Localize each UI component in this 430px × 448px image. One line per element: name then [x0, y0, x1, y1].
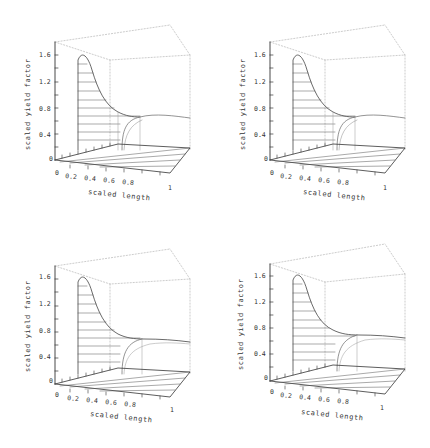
x-tick-0-4: 0.4: [86, 396, 99, 405]
z-axis-label: scaled yield factor: [24, 59, 32, 150]
x-tick-0-6: 0.6: [105, 398, 118, 407]
z-tick-0-4: 0.4: [254, 350, 266, 358]
x-tick-0-2: 0.2: [65, 172, 78, 181]
surface-plot-bottom-left: 1.6 1.2 0.8 0.4 0 0 0.2 0.4 0.6 0.8 1 sc…: [0, 224, 215, 448]
z-tick-0: 0: [49, 155, 53, 163]
x-axis-label: scaled length: [90, 410, 153, 424]
z-axis-label: scaled yield factor: [24, 281, 32, 372]
x-tick-0-2: 0.2: [280, 172, 293, 181]
surface-plot-bottom-right: 1.6 1.2 0.8 0.4 0 0 0.2 0.4 0.6 0.8 1 sc…: [215, 224, 430, 448]
z-tick-0-4: 0.4: [254, 131, 266, 139]
x-axis-label: scaled length: [88, 188, 151, 202]
x-tick-0-2: 0.2: [280, 391, 293, 400]
x-tick-0-6: 0.6: [318, 176, 331, 185]
x-tick-0: 0: [55, 169, 59, 177]
surface-plot-top-left: 1.6 1.2 0.8 0.4 0 0 0.2 0.4 0.6 0.8 1 sc…: [0, 0, 215, 224]
z-tick-1-2: 1.2: [254, 298, 266, 306]
x-axis-label: scaled length: [303, 188, 366, 202]
x-tick-0-2: 0.2: [67, 394, 80, 403]
z-tick-0: 0: [264, 155, 268, 163]
x-tick-0-6: 0.6: [103, 176, 116, 185]
x-tick-0-8: 0.8: [337, 178, 350, 187]
x-tick-0-8: 0.8: [122, 178, 135, 187]
x-tick-0: 0: [270, 169, 274, 177]
x-tick-0-8: 0.8: [337, 397, 350, 406]
x-tick-0-4: 0.4: [84, 174, 97, 183]
z-tick-1-6: 1.6: [39, 51, 51, 59]
x-tick-0-4: 0.4: [299, 174, 312, 183]
z-tick-1-2: 1.2: [39, 78, 51, 86]
x-tick-1: 1: [383, 184, 387, 192]
plot-svg: 1.6 1.2 0.8 0.4 0 0 0.2 0.4 0.6 0.8 1 sc…: [0, 0, 215, 224]
x-tick-0-4: 0.4: [299, 393, 312, 402]
z-tick-1-6: 1.6: [254, 51, 266, 59]
z-tick-1-6: 1.6: [39, 273, 51, 281]
z-tick-0-8: 0.8: [254, 105, 266, 113]
x-tick-1: 1: [170, 406, 174, 414]
z-tick-1-2: 1.2: [39, 300, 51, 308]
z-tick-0-4: 0.4: [39, 353, 51, 361]
x-tick-1: 1: [168, 184, 172, 192]
plot-svg: 1.6 1.2 0.8 0.4 0 0 0.2 0.4 0.6 0.8 1 sc…: [0, 224, 215, 448]
x-tick-0: 0: [55, 391, 59, 399]
z-tick-1-6: 1.6: [254, 272, 266, 280]
z-tick-0-8: 0.8: [39, 105, 51, 113]
figure-grid: 1.6 1.2 0.8 0.4 0 0 0.2 0.4 0.6 0.8 1 sc…: [0, 0, 430, 448]
z-axis-label: scaled yield factor: [239, 59, 247, 150]
z-tick-0: 0: [49, 377, 53, 385]
z-axis-label: scaled yield factor: [237, 279, 245, 370]
surface-plot-top-right: 1.6 1.2 0.8 0.4 0 0 0.2 0.4 0.6 0.8 1 sc…: [215, 0, 430, 224]
z-tick-0-4: 0.4: [39, 131, 51, 139]
x-tick-1: 1: [380, 404, 384, 412]
z-tick-0: 0: [264, 374, 268, 382]
z-tick-0-8: 0.8: [254, 324, 266, 332]
x-axis-label: scaled length: [301, 408, 364, 422]
x-tick-0-6: 0.6: [318, 395, 331, 404]
plot-svg: 1.6 1.2 0.8 0.4 0 0 0.2 0.4 0.6 0.8 1 sc…: [215, 224, 430, 448]
z-tick-0-8: 0.8: [39, 327, 51, 335]
plot-svg: 1.6 1.2 0.8 0.4 0 0 0.2 0.4 0.6 0.8 1 sc…: [215, 0, 430, 224]
z-tick-1-2: 1.2: [254, 78, 266, 86]
x-tick-0: 0: [270, 388, 274, 396]
x-tick-0-8: 0.8: [124, 400, 137, 409]
